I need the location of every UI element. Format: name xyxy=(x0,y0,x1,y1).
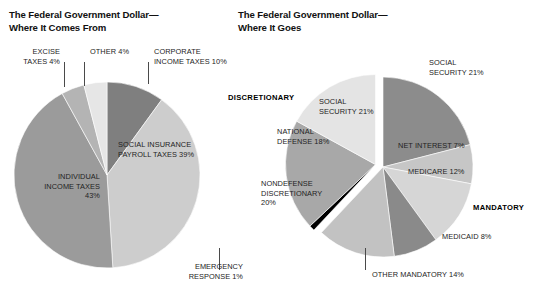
label-social-security-callout: SOCIAL SECURITY 21% xyxy=(429,58,519,77)
label-other: OTHER 4% xyxy=(90,47,146,57)
leader-line-other-mandatory xyxy=(365,248,366,270)
label-medicare: MEDICARE 12% xyxy=(408,167,494,177)
label-nondefense-discretionary: NONDEFENSE DISCRETIONARY 20% xyxy=(261,179,347,208)
group-label-discretionary: DISCRETIONARY xyxy=(228,93,294,102)
label-excise-taxes: EXCISE TAXES 4% xyxy=(4,47,60,66)
label-social-security-inslice: SOCIAL SECURITY 21% xyxy=(319,97,391,116)
leader-line-corporate xyxy=(148,62,149,84)
leader-line-other xyxy=(84,62,85,86)
label-medicaid: MEDICAID 8% xyxy=(442,232,524,242)
leader-line-excise xyxy=(64,62,65,87)
label-individual-income-taxes: INDIVIDUAL INCOME TAXES 43% xyxy=(22,172,100,201)
label-emergency-response: EMERGENCY RESPONSE 1% xyxy=(153,262,243,281)
label-social-insurance-payroll-taxes: SOCIAL INSURANCE PAYROLL TAXES 39% xyxy=(118,140,230,159)
group-label-mandatory: MANDATORY xyxy=(473,203,524,212)
label-national-defense: NATIONAL DEFENSE 18% xyxy=(277,127,357,146)
label-other-mandatory: OTHER MANDATORY 14% xyxy=(372,270,496,280)
pie-chart-spending xyxy=(233,0,546,294)
chart-panel-where-it-goes: The Federal Government Dollar— Where It … xyxy=(233,0,546,294)
label-net-interest: NET INTEREST 7% xyxy=(398,141,494,151)
